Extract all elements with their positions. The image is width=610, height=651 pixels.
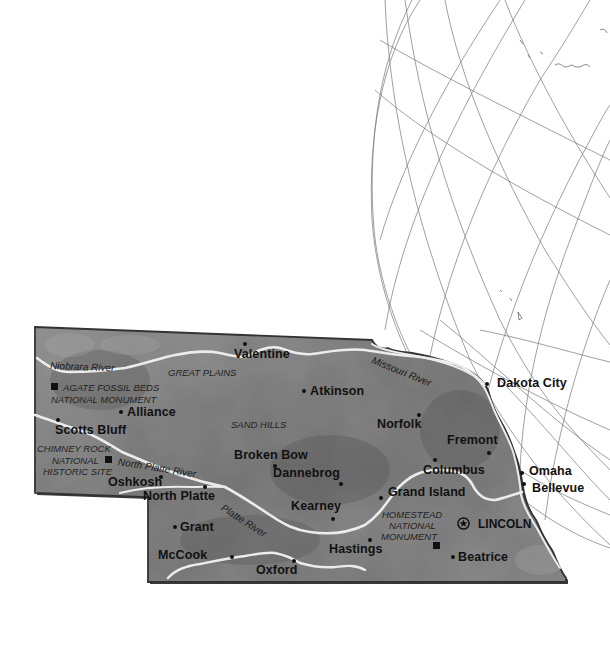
dot-alliance [119, 410, 123, 414]
dot-valentine [243, 342, 247, 346]
city-alliance: Alliance [127, 406, 176, 419]
star-capital-icon [457, 517, 470, 530]
city-broken-bow: Broken Bow [234, 449, 308, 462]
homestead-marker [433, 542, 440, 549]
label-homestead-line1: HOMESTEAD [382, 509, 442, 520]
city-valentine: Valentine [234, 348, 290, 361]
dot-kearney [331, 517, 335, 521]
region-sand-hills: SAND HILLS [231, 420, 286, 430]
label-chimney-line1: CHIMNEY ROCK [37, 443, 111, 454]
city-norfolk: Norfolk [377, 418, 421, 431]
label-agate-line2: NATIONAL MONUMENT [51, 394, 156, 405]
city-north-platte: North Platte [143, 490, 215, 503]
agate-fossil-beds-marker [51, 383, 58, 390]
city-grand-island: Grand Island [388, 486, 466, 499]
dot-dakota-city [485, 382, 489, 386]
dot-mccook [230, 555, 234, 559]
label-homestead-line3: MONUMENT [381, 531, 437, 542]
dot-fremont [487, 451, 491, 455]
region-great-plains: GREAT PLAINS [168, 368, 236, 378]
city-oshkosh: Oshkosh [108, 476, 162, 489]
dot-scotts-bluff [56, 418, 60, 422]
dot-dannebrog [339, 482, 343, 486]
chimney-rock-marker [105, 456, 112, 463]
label-chimney-line3: HISTORIC SITE [43, 466, 112, 477]
city-bellevue: Bellevue [532, 482, 584, 495]
dot-grand-island [379, 496, 383, 500]
city-oxford: Oxford [256, 564, 298, 577]
city-scotts-bluff: Scotts Bluff [55, 424, 126, 437]
nebraska-map [0, 0, 610, 651]
dot-beatrice [451, 555, 455, 559]
city-fremont: Fremont [447, 434, 498, 447]
label-agate-line1: AGATE FOSSIL BEDS [63, 382, 159, 393]
city-hastings: Hastings [329, 543, 383, 556]
label-homestead-line2: NATIONAL [389, 520, 436, 531]
city-atkinson: Atkinson [310, 385, 364, 398]
label-chimney-line2: NATIONAL [52, 455, 99, 466]
dot-grant [173, 525, 177, 529]
city-lincoln: LINCOLN [478, 518, 531, 530]
city-dannebrog: Dannebrog [273, 467, 340, 480]
city-dakota-city: Dakota City [497, 377, 567, 390]
city-kearney: Kearney [291, 500, 341, 513]
city-omaha: Omaha [529, 465, 572, 478]
dot-omaha [520, 471, 524, 475]
dot-columbus [433, 458, 437, 462]
dot-atkinson [302, 389, 306, 393]
dot-bellevue [522, 482, 526, 486]
city-grant: Grant [180, 521, 214, 534]
city-columbus: Columbus [423, 464, 485, 477]
city-mccook: McCook [158, 549, 207, 562]
city-beatrice: Beatrice [458, 551, 508, 564]
